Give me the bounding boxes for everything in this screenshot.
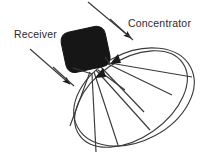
reflected-ray-1	[104, 62, 192, 77]
reflected-ray-8	[70, 72, 90, 126]
receiver-label: Receiver	[14, 28, 57, 40]
concentrator-receiver-diagram: Receiver Concentrator	[0, 0, 206, 168]
reflected-ray-7	[92, 74, 96, 152]
receiver-body	[59, 25, 112, 74]
reflected-ray-3	[100, 66, 144, 112]
concentrator-label: Concentrator	[128, 17, 191, 29]
reflected-ray-6	[94, 72, 118, 145]
diagram-canvas: Receiver Concentrator	[0, 0, 206, 168]
receiver-block	[59, 25, 112, 74]
reflected-ray-5	[96, 70, 150, 130]
